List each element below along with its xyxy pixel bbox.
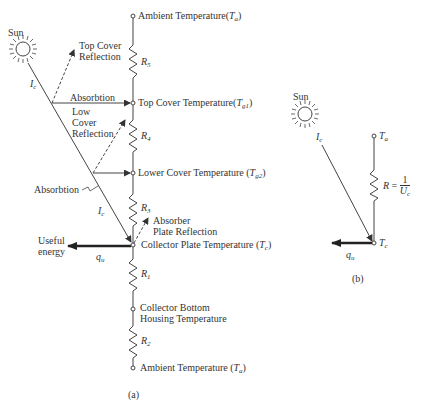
- node-label-lower-cover: Lower Cover Temperature (Tg2): [138, 167, 266, 182]
- node-ta-b: [372, 134, 376, 138]
- resistor-label-r3: R3: [141, 202, 151, 217]
- node-label-ta-b: Ta: [379, 130, 388, 145]
- node-label-ambient-bottom: Ambient Temperature (Ta): [140, 362, 246, 377]
- incident-label-lower: Ic: [98, 205, 104, 220]
- resistor-label-r2: R2: [141, 335, 151, 350]
- resistor-r2: [129, 326, 137, 358]
- resistor-r5: [129, 45, 137, 78]
- sun-icon-b: [291, 100, 319, 128]
- node-label-ambient-top: Ambient Temperature(Ta): [138, 10, 241, 25]
- resistor-r1: [129, 259, 137, 291]
- sun-icon: [9, 35, 37, 63]
- caption-b: (b): [352, 273, 364, 284]
- incident-ray-b: [322, 145, 372, 241]
- absorber-plate-reflection-label: AbsorberPlate Reflection: [153, 215, 217, 237]
- resistor-label-r4: R4: [141, 130, 151, 145]
- diagram-b: [291, 100, 378, 245]
- node-bottom-housing: [131, 307, 135, 311]
- heat-flow-label-b: qu: [346, 249, 355, 264]
- absorbtion-low-label: Absorbtion: [34, 184, 79, 195]
- node-label-collector-plate: Collector Plate Temperature (Tc): [141, 239, 271, 254]
- resistor-label-r1: R1: [141, 268, 151, 283]
- top-cover-reflection-label: Top CoverReflection: [79, 40, 121, 62]
- node-label-top-cover: Top Cover Temperature(Tg1): [138, 97, 252, 112]
- caption-a: (a): [128, 389, 139, 400]
- node-label-bottom-housing: Collector BottomHousing Temperature: [140, 302, 227, 324]
- incident-ray: [28, 63, 131, 242]
- absorbtion-top-label: Absorbtion: [70, 92, 115, 103]
- node-lower-cover: [131, 171, 135, 175]
- resistor-r3: [129, 194, 137, 226]
- useful-energy-label: Usefulenergy: [38, 235, 65, 257]
- sun-label-b: Sun: [293, 91, 309, 102]
- incident-label-b: Ic: [316, 131, 322, 146]
- resistor-label-r5: R5: [141, 56, 151, 71]
- low-cover-reflection-label: LowCoverReflection: [72, 106, 114, 139]
- sun-label: Sun: [8, 27, 24, 38]
- node-ambient-top: [131, 14, 135, 18]
- incident-label-top: Ic: [30, 78, 36, 93]
- resistor-label-r-b: R = 1Uc: [383, 175, 410, 199]
- resistance-network: [129, 14, 137, 370]
- heat-flow-label: qu: [96, 251, 105, 266]
- resistor-r-b: [370, 170, 378, 201]
- thermal-network-diagram: [0, 0, 422, 404]
- node-tc-b: [372, 241, 376, 245]
- absorbtion-leader: [82, 186, 98, 191]
- node-ambient-bottom: [131, 366, 135, 370]
- resistor-r4: [129, 120, 137, 152]
- node-collector-plate: [131, 243, 135, 247]
- node-top-cover: [131, 101, 135, 105]
- node-label-tc-b: Tc: [379, 237, 388, 252]
